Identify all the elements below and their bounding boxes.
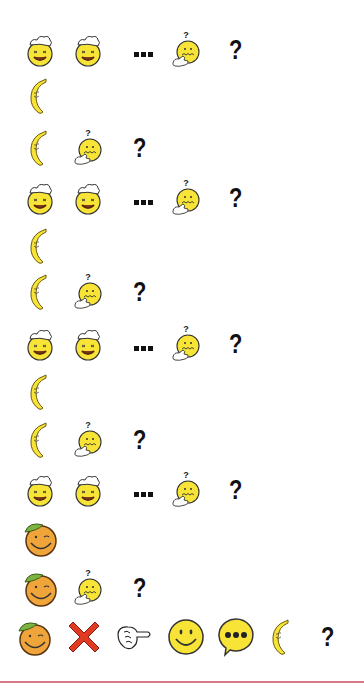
banana-cell xyxy=(22,74,58,118)
question-mark: ? xyxy=(218,28,254,72)
question-mark: ? xyxy=(122,270,158,314)
orange-smiley-icon xyxy=(15,617,53,657)
chef-smiley-cell xyxy=(22,322,58,366)
ellipsis-icon xyxy=(125,28,161,72)
banana-cell xyxy=(22,224,58,268)
thinking-smiley-icon: ? xyxy=(72,420,104,460)
chef-smiley-cell xyxy=(22,468,58,512)
banana-cell xyxy=(264,615,300,659)
question-mark: ? xyxy=(122,566,158,610)
svg-text:?: ? xyxy=(183,178,189,188)
thinking-smiley-cell: ? xyxy=(70,270,106,314)
question-mark-text: ? xyxy=(133,134,146,162)
svg-text:?: ? xyxy=(183,470,189,480)
banana-cell xyxy=(22,418,58,462)
banana-cell xyxy=(22,270,58,314)
question-mark-text: ? xyxy=(133,426,146,454)
chef-smiley-icon xyxy=(25,326,55,362)
puzzle-row: ? ? xyxy=(0,28,364,72)
puzzle-row: ? ? xyxy=(0,126,364,170)
red-x-cell xyxy=(66,615,102,659)
question-mark: ? xyxy=(122,418,158,462)
ellipsis-icon xyxy=(125,468,161,512)
puzzle-row: ? ? xyxy=(0,176,364,220)
banana-icon xyxy=(29,129,51,167)
question-mark-text: ? xyxy=(133,574,146,602)
orange-smiley-cell xyxy=(22,566,58,610)
svg-text:?: ? xyxy=(183,324,189,334)
question-mark: ? xyxy=(218,322,254,366)
chef-smiley-icon xyxy=(73,180,103,216)
question-mark: ? xyxy=(218,468,254,512)
banana-icon xyxy=(29,373,51,411)
puzzle-row xyxy=(0,370,364,414)
banana-icon xyxy=(29,273,51,311)
thinking-smiley-cell: ? xyxy=(70,566,106,610)
chef-smiley-icon xyxy=(25,32,55,68)
svg-text:?: ? xyxy=(183,30,189,40)
chef-smiley-cell xyxy=(70,176,106,220)
question-mark-text: ? xyxy=(321,623,334,651)
question-mark-text: ? xyxy=(133,278,146,306)
puzzle-row xyxy=(0,224,364,268)
question-mark: ? xyxy=(310,615,346,659)
question-mark: ? xyxy=(122,126,158,170)
thinking-smiley-icon: ? xyxy=(72,128,104,168)
red-x-icon xyxy=(65,618,103,656)
thinking-smiley-cell: ? xyxy=(168,28,204,72)
question-mark-text: ? xyxy=(229,476,242,504)
pointing-hand-icon xyxy=(115,622,153,652)
orange-smiley-cell xyxy=(16,615,52,659)
ellipsis-icon xyxy=(125,176,161,220)
question-mark-text: ? xyxy=(229,184,242,212)
chef-smiley-cell xyxy=(70,28,106,72)
puzzle-row xyxy=(0,74,364,118)
pointing-hand-cell xyxy=(116,615,152,659)
puzzle-row: ? ? xyxy=(0,566,364,610)
bottom-divider xyxy=(0,681,364,683)
puzzle-row: ? xyxy=(0,615,364,659)
puzzle-row: ? ? xyxy=(0,322,364,366)
banana-icon xyxy=(29,421,51,459)
chef-smiley-cell xyxy=(70,322,106,366)
puzzle-row: ? ? xyxy=(0,418,364,462)
thinking-smiley-icon: ? xyxy=(170,470,202,510)
chef-smiley-icon xyxy=(73,32,103,68)
chef-smiley-cell xyxy=(22,28,58,72)
thinking-smiley-icon: ? xyxy=(170,324,202,364)
ellipsis-icon xyxy=(125,322,161,366)
chef-smiley-icon xyxy=(73,472,103,508)
svg-text:?: ? xyxy=(85,128,91,138)
thinking-smiley-cell: ? xyxy=(70,126,106,170)
chef-smiley-icon xyxy=(25,180,55,216)
thinking-smiley-cell: ? xyxy=(70,418,106,462)
puzzle-row: ? ? xyxy=(0,468,364,512)
thinking-smiley-cell: ? xyxy=(168,468,204,512)
puzzle-row: ? ? xyxy=(0,270,364,314)
thinking-smiley-icon: ? xyxy=(72,272,104,312)
thinking-smiley-cell: ? xyxy=(168,322,204,366)
question-mark-text: ? xyxy=(229,36,242,64)
smiley-face-cell xyxy=(168,615,204,659)
question-mark: ? xyxy=(218,176,254,220)
chef-smiley-icon xyxy=(25,472,55,508)
banana-icon xyxy=(29,77,51,115)
thinking-smiley-icon: ? xyxy=(170,30,202,70)
thinking-smiley-icon: ? xyxy=(170,178,202,218)
banana-cell xyxy=(22,370,58,414)
banana-cell xyxy=(22,126,58,170)
chef-smiley-cell xyxy=(70,468,106,512)
speech-bubble-icon xyxy=(217,617,255,657)
thinking-smiley-cell: ? xyxy=(168,176,204,220)
chef-smiley-cell xyxy=(22,176,58,220)
question-mark-text: ? xyxy=(229,330,242,358)
orange-smiley-icon xyxy=(21,568,59,608)
thinking-smiley-icon: ? xyxy=(72,568,104,608)
svg-text:?: ? xyxy=(85,420,91,430)
speech-bubble-cell xyxy=(218,615,254,659)
banana-icon xyxy=(29,227,51,265)
chef-smiley-icon xyxy=(73,326,103,362)
svg-text:?: ? xyxy=(85,568,91,578)
banana-icon xyxy=(271,618,293,656)
orange-smiley-cell xyxy=(22,516,58,560)
